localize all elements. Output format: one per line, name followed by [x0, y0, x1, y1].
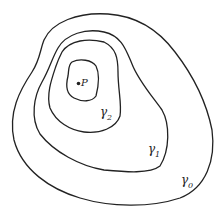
nested-curves-diagram: P γ 2 γ 1 γ 0 [0, 0, 222, 210]
svg-text:0: 0 [188, 181, 193, 190]
svg-text:2: 2 [106, 113, 112, 122]
svg-text:1: 1 [155, 150, 160, 159]
point-p-label: P [80, 77, 88, 88]
label-gamma1: γ 1 [148, 142, 160, 159]
label-gamma0: γ 0 [181, 173, 193, 190]
point-p-dot [77, 82, 81, 86]
label-gamma2: γ 2 [100, 105, 112, 122]
